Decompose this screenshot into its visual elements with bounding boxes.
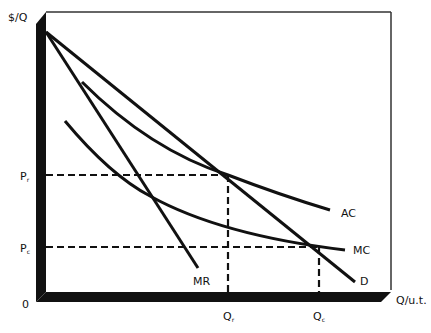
mr-curve (46, 32, 198, 268)
qr-label: Qr (223, 310, 235, 323)
x-axis-label: Q/u.t. (396, 294, 427, 307)
mc-label: MC (353, 244, 370, 257)
ac-label: AC (341, 207, 356, 220)
pr-label: Pr (20, 170, 30, 183)
mc-curve (65, 121, 345, 250)
economics-diagram: AC MC D MR $/Q Q/u.t. 0 Pr Pc Qr Qc (0, 0, 431, 333)
origin-label: 0 (22, 298, 29, 311)
y-axis (36, 12, 46, 302)
pc-label: Pc (20, 242, 30, 255)
qc-label: Qc (313, 310, 325, 323)
x-axis (36, 292, 391, 302)
y-axis-label: $/Q (8, 11, 28, 24)
d-label: D (360, 275, 368, 288)
mr-label: MR (193, 275, 210, 288)
